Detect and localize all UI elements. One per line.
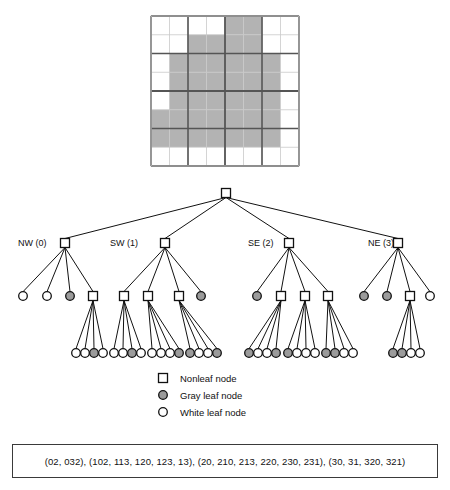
level3-white-leaf-node bbox=[166, 349, 175, 358]
edge-quadrant-to-subnode bbox=[47, 248, 65, 292]
grid-cell bbox=[151, 147, 170, 166]
edge-quadrant-to-subnode bbox=[281, 248, 289, 292]
grid-cell bbox=[281, 16, 300, 35]
tree-edges bbox=[23, 198, 430, 349]
quadrant-label: SE (2) bbox=[248, 238, 274, 248]
level2-gray-leaf-node bbox=[253, 292, 262, 301]
edge-subnode-to-leaf bbox=[123, 301, 124, 349]
level2-nonleaf-node bbox=[301, 292, 310, 301]
quadrant-label: NW (0) bbox=[18, 238, 47, 248]
level3-gray-leaf-node bbox=[213, 349, 222, 358]
legend: Nonleaf nodeGray leaf nodeWhite leaf nod… bbox=[159, 373, 247, 418]
grid-cell bbox=[207, 110, 226, 129]
grid-cell bbox=[188, 35, 207, 54]
grid-cell bbox=[151, 110, 170, 129]
level2-gray-leaf-node bbox=[197, 292, 206, 301]
legend-label: Nonleaf node bbox=[180, 373, 237, 384]
level2-gray-leaf-node bbox=[360, 292, 369, 301]
grid-cell bbox=[262, 129, 281, 148]
grid-cell bbox=[151, 72, 170, 91]
edge-subnode-to-leaf bbox=[76, 301, 93, 349]
level3-white-leaf-node bbox=[110, 349, 119, 358]
edge-quadrant-to-subnode bbox=[23, 248, 65, 292]
legend-nonleaf-icon bbox=[159, 374, 168, 383]
grid-cell bbox=[281, 54, 300, 73]
grid-cell bbox=[188, 54, 207, 73]
edge-subnode-to-leaf bbox=[326, 301, 328, 349]
level3-white-leaf-node bbox=[416, 349, 425, 358]
grid-cell bbox=[262, 147, 281, 166]
grid-cell bbox=[207, 91, 226, 110]
level3-gray-leaf-node bbox=[398, 349, 407, 358]
level3-white-leaf-node bbox=[311, 349, 320, 358]
level2-nonleaf-node bbox=[277, 292, 286, 301]
level3-white-leaf-node bbox=[119, 349, 128, 358]
edge-subnode-to-leaf bbox=[410, 301, 411, 349]
edge-subnode-to-leaf bbox=[393, 301, 410, 349]
level2-gray-leaf-node bbox=[383, 292, 392, 301]
edge-subnode-to-leaf bbox=[410, 301, 420, 349]
edge-subnode-to-leaf bbox=[85, 301, 93, 349]
level2-white-leaf-node bbox=[19, 292, 28, 301]
level2-nonleaf-node bbox=[89, 292, 98, 301]
level3-white-leaf-node bbox=[263, 349, 272, 358]
edge-quadrant-to-subnode bbox=[165, 248, 201, 292]
edge-subnode-to-leaf bbox=[124, 301, 132, 349]
level2-white-leaf-node bbox=[43, 292, 52, 301]
level3-gray-leaf-node bbox=[331, 349, 340, 358]
grid-cell bbox=[262, 91, 281, 110]
quadrant-nonleaf-node bbox=[394, 239, 403, 248]
edge-subnode-to-leaf bbox=[328, 301, 344, 349]
level2-nonleaf-node bbox=[120, 292, 129, 301]
grid-cell bbox=[188, 72, 207, 91]
grid-cell bbox=[225, 54, 244, 73]
grid-cell bbox=[244, 147, 263, 166]
grid-cell bbox=[244, 35, 263, 54]
grid-cell bbox=[151, 35, 170, 54]
quadrant-nonleaf-node bbox=[61, 239, 70, 248]
level3-white-leaf-node bbox=[407, 349, 416, 358]
edge-root-to-quadrant bbox=[65, 198, 226, 239]
grid-cell bbox=[170, 110, 189, 129]
level3-gray-leaf-node bbox=[322, 349, 331, 358]
level3-white-leaf-node bbox=[195, 349, 204, 358]
edge-subnode-to-leaf bbox=[297, 301, 305, 349]
quadrant-nonleaf-node bbox=[161, 239, 170, 248]
grid-cell bbox=[262, 54, 281, 73]
grid-cell bbox=[225, 35, 244, 54]
grid-cell bbox=[281, 91, 300, 110]
level3-white-leaf-node bbox=[157, 349, 166, 358]
level2-nonleaf-node bbox=[144, 292, 153, 301]
edge-subnode-to-leaf bbox=[93, 301, 103, 349]
level3-white-leaf-node bbox=[81, 349, 90, 358]
grid-cell bbox=[244, 91, 263, 110]
edge-quadrant-to-subnode bbox=[289, 248, 305, 292]
grid-cell bbox=[244, 110, 263, 129]
grid-cell bbox=[207, 72, 226, 91]
grid-cell bbox=[262, 110, 281, 129]
grid-cell bbox=[151, 91, 170, 110]
legend-label: White leaf node bbox=[180, 407, 246, 418]
grid-cell bbox=[207, 54, 226, 73]
grid-cell bbox=[188, 16, 207, 35]
level3-gray-leaf-node bbox=[128, 349, 137, 358]
grid-cell bbox=[207, 35, 226, 54]
level2-gray-leaf-node bbox=[66, 292, 75, 301]
edge-subnode-to-leaf bbox=[249, 301, 281, 349]
edge-quadrant-to-subnode bbox=[124, 248, 165, 292]
grid-cell bbox=[244, 16, 263, 35]
edge-subnode-to-leaf bbox=[179, 301, 199, 349]
grid-cell bbox=[170, 147, 189, 166]
level3-gray-leaf-node bbox=[90, 349, 99, 358]
grid-cell bbox=[225, 147, 244, 166]
edge-subnode-to-leaf bbox=[305, 301, 306, 349]
grid-cell bbox=[207, 147, 226, 166]
grid-cell bbox=[281, 110, 300, 129]
level3-gray-leaf-node bbox=[245, 349, 254, 358]
grid-cell bbox=[151, 54, 170, 73]
level3-gray-leaf-node bbox=[175, 349, 184, 358]
grid-cell bbox=[281, 35, 300, 54]
level2-nonleaf-node bbox=[324, 292, 333, 301]
edge-quadrant-to-subnode bbox=[148, 248, 165, 292]
edge-subnode-to-leaf bbox=[179, 301, 208, 349]
